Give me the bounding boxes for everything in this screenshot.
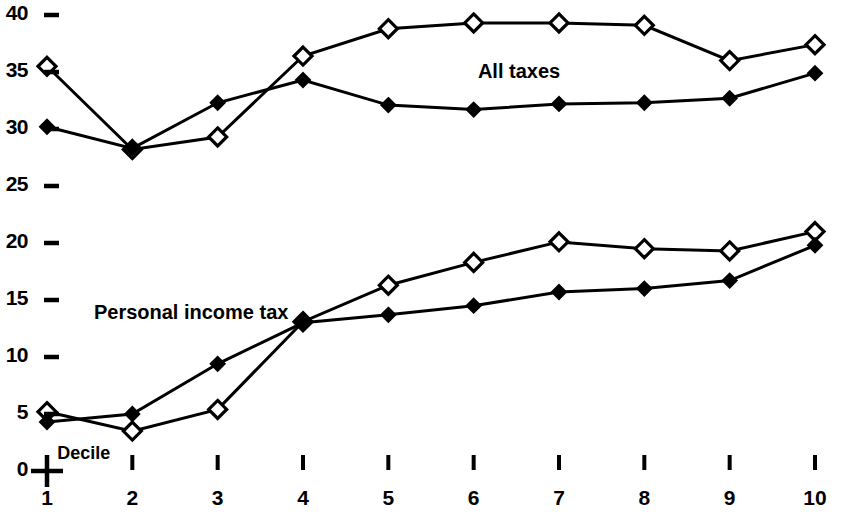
- y-tick-label-30: 30: [0, 115, 28, 139]
- data-point-s3-x7: [552, 285, 566, 299]
- data-point-s2-x7: [550, 233, 568, 251]
- series-line-3: [47, 245, 815, 422]
- y-tick-label-35: 35: [0, 58, 28, 82]
- series-label-all-taxes: All taxes: [478, 60, 560, 83]
- y-tick-label-25: 25: [0, 172, 28, 196]
- y-tick-label-5: 5: [0, 400, 28, 424]
- data-point-s1-x5: [381, 98, 395, 112]
- series-lines-layer: [47, 23, 815, 431]
- data-point-s2-x6: [465, 253, 483, 271]
- y-tick-label-10: 10: [0, 343, 28, 367]
- chart-container: 0510152025303540 12345678910 All taxes P…: [0, 0, 845, 517]
- data-point-s0-x5: [379, 20, 397, 38]
- series-line-1: [47, 73, 815, 148]
- x-axis-title: Decile: [57, 443, 110, 464]
- x-tick-label-8: 8: [624, 486, 664, 510]
- x-tick-label-2: 2: [112, 486, 152, 510]
- data-point-s1-x1: [40, 120, 54, 134]
- chart-plot-area: [0, 0, 845, 517]
- data-point-s3-x2: [125, 407, 139, 421]
- data-point-s3-x5: [381, 308, 395, 322]
- y-tick-label-0: 0: [0, 457, 28, 481]
- x-tick-label-9: 9: [710, 486, 750, 510]
- data-point-s0-x9: [721, 52, 739, 70]
- y-tick-label-15: 15: [0, 286, 28, 310]
- x-tick-label-5: 5: [368, 486, 408, 510]
- data-point-s1-x4: [296, 73, 310, 87]
- data-point-s2-x5: [379, 276, 397, 294]
- x-tick-label-3: 3: [198, 486, 238, 510]
- x-tick-label-6: 6: [454, 486, 494, 510]
- series-label-personal-income-tax: Personal income tax: [94, 301, 289, 324]
- data-point-s0-x7: [550, 14, 568, 32]
- data-point-s2-x8: [635, 240, 653, 258]
- series-line-0: [47, 23, 815, 150]
- y-tick-label-40: 40: [0, 1, 28, 25]
- data-point-s0-x6: [465, 14, 483, 32]
- x-tick-label-7: 7: [539, 486, 579, 510]
- data-point-s0-x10: [806, 36, 824, 54]
- data-point-s3-x3: [211, 357, 225, 371]
- data-point-s3-x6: [467, 299, 481, 313]
- x-tick-label-10: 10: [795, 486, 835, 510]
- x-tick-label-4: 4: [283, 486, 323, 510]
- data-point-s3-x10: [808, 238, 822, 252]
- data-point-s1-x6: [467, 103, 481, 117]
- series-line-2: [47, 232, 815, 432]
- data-point-s1-x3: [211, 96, 225, 110]
- data-point-s1-x8: [637, 96, 651, 110]
- series-markers-layer: [38, 14, 824, 440]
- x-tick-label-1: 1: [27, 486, 67, 510]
- data-point-s1-x10: [808, 66, 822, 80]
- data-point-s2-x9: [721, 242, 739, 260]
- data-point-s1-x9: [723, 91, 737, 105]
- data-point-s3-x8: [637, 282, 651, 296]
- data-point-s1-x7: [552, 97, 566, 111]
- data-point-s0-x8: [635, 16, 653, 34]
- y-tick-label-20: 20: [0, 229, 28, 253]
- data-point-s3-x9: [723, 274, 737, 288]
- data-point-s2-x2: [123, 422, 141, 440]
